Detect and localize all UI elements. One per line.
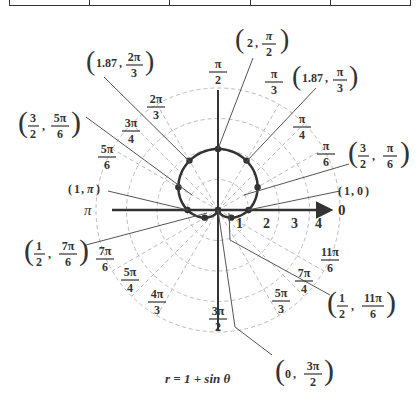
point-label-3-2-pi-6: ( 3 2 , π 6 ): [348, 135, 410, 171]
svg-text:(: (: [338, 184, 342, 198]
svg-text:4: 4: [127, 281, 133, 295]
svg-text:1: 1: [36, 239, 42, 253]
svg-text:6: 6: [327, 261, 333, 275]
svg-text:): ): [71, 105, 81, 139]
angle-label: π3: [265, 67, 283, 97]
svg-text:3π: 3π: [212, 304, 225, 318]
svg-text:,: ,: [42, 119, 45, 133]
svg-text:0: 0: [357, 184, 363, 198]
polar-graph: 1 2 3 4 0 π π2π3π4π62π33π45π67π65π44π33π…: [0, 0, 419, 401]
svg-text:6: 6: [370, 307, 376, 321]
svg-text:5π: 5π: [54, 111, 67, 125]
svg-text:(: (: [292, 60, 301, 91]
angle-label: 3π4: [122, 116, 140, 146]
svg-text:): ): [145, 45, 154, 76]
svg-text:7π: 7π: [99, 244, 112, 258]
point-label-2-pi-2: ( 2, π 2 ): [235, 23, 289, 59]
point-label-187-2pi-3: ( 1.87, 2π 3 ): [86, 45, 154, 80]
svg-text:2: 2: [247, 36, 253, 50]
svg-text:4π: 4π: [151, 287, 164, 301]
svg-text:11π: 11π: [321, 245, 339, 259]
svg-text:,: ,: [351, 184, 354, 198]
svg-text:4: 4: [128, 132, 134, 146]
svg-text:π: π: [337, 65, 344, 79]
svg-text:): ): [280, 23, 289, 54]
point-label-187-pi-3: ( 1.87, π 3 ): [292, 60, 358, 95]
svg-text:1.87: 1.87: [302, 71, 323, 85]
svg-text:): ): [400, 135, 410, 169]
svg-text:): ): [79, 233, 89, 267]
svg-text:π: π: [299, 112, 306, 126]
svg-text:(: (: [86, 45, 95, 76]
svg-text:3: 3: [271, 83, 277, 97]
svg-text:2π: 2π: [150, 92, 163, 106]
svg-text:3: 3: [153, 108, 159, 122]
svg-text:5π: 5π: [124, 265, 137, 279]
svg-text:3: 3: [154, 303, 160, 317]
svg-text:2π: 2π: [128, 50, 141, 64]
svg-text:1: 1: [236, 216, 243, 231]
svg-text:6: 6: [104, 158, 110, 172]
point-label-1-2-7pi-6: ( 1 2 , 7π 6 ): [24, 233, 89, 269]
svg-text:,: ,: [351, 299, 354, 313]
svg-text:,: ,: [48, 247, 51, 261]
svg-text:2: 2: [266, 45, 272, 59]
data-point: [202, 214, 208, 220]
svg-text:11π: 11π: [364, 291, 382, 305]
angle-label: 4π3: [148, 287, 166, 317]
svg-text:): ): [386, 285, 396, 319]
svg-text:4: 4: [301, 282, 307, 296]
svg-text:3: 3: [278, 302, 284, 316]
angle-label: 7π4: [295, 266, 313, 296]
svg-text:6: 6: [102, 260, 108, 274]
svg-text:5π: 5π: [101, 142, 114, 156]
svg-text:π: π: [266, 29, 273, 43]
svg-text:2: 2: [360, 157, 366, 171]
point-label-3-2-5pi-6: ( 3 2 , 5π 6 ): [18, 105, 81, 141]
svg-text:4: 4: [299, 128, 305, 142]
svg-text:): ): [324, 353, 334, 387]
angle-label: 3π2: [209, 304, 227, 334]
angle-label: 5π4: [121, 265, 139, 295]
svg-text:3: 3: [337, 81, 343, 95]
svg-text:,: ,: [255, 36, 258, 50]
angle-label: 5π3: [272, 286, 290, 316]
svg-text:(: (: [348, 135, 358, 169]
svg-text:,: ,: [293, 367, 296, 381]
svg-text:(: (: [275, 353, 285, 387]
svg-text:π: π: [271, 67, 278, 81]
angle-label: 7π6: [96, 244, 114, 274]
point-label-0-3pi-2: ( 0, 3π 2 ): [275, 353, 334, 389]
point-labels: ( 2, π 2 ) ( 1.87, 2π 3 ) ( 1.87, π 3 ) …: [18, 23, 410, 389]
svg-text:(: (: [18, 105, 28, 139]
point-label-1-2-11pi-6: ( 1 2 , 11π 6 ): [327, 285, 396, 321]
angle-label: π2: [209, 57, 227, 87]
svg-text:2: 2: [36, 255, 42, 269]
svg-text:): ): [96, 182, 100, 196]
svg-text:(: (: [235, 23, 244, 54]
svg-text:,: ,: [119, 56, 122, 70]
svg-text:6: 6: [57, 127, 63, 141]
svg-text:3: 3: [360, 141, 366, 155]
point-label-1-pi: (1, π): [68, 182, 100, 196]
svg-text:,: ,: [81, 182, 84, 196]
equation-caption: r = 1 + sin θ: [165, 371, 231, 386]
svg-text:3: 3: [291, 216, 298, 231]
pi-angle-label: π: [84, 202, 92, 218]
angle-label: 2π3: [147, 92, 165, 122]
svg-text:6: 6: [323, 155, 329, 169]
point-label-1-0: (1, 0): [338, 184, 369, 198]
svg-text:0: 0: [285, 367, 291, 381]
svg-text:2: 2: [310, 375, 316, 389]
data-point: [186, 157, 192, 163]
svg-text:,: ,: [325, 71, 328, 85]
svg-text:1: 1: [344, 184, 350, 198]
svg-text:6: 6: [65, 255, 71, 269]
svg-text:1: 1: [74, 182, 80, 196]
svg-text:π: π: [215, 57, 222, 71]
svg-text:1: 1: [339, 291, 345, 305]
svg-text:7π: 7π: [298, 266, 311, 280]
svg-text:6: 6: [387, 157, 393, 171]
svg-text:,: ,: [372, 149, 375, 163]
svg-text:2: 2: [30, 127, 36, 141]
